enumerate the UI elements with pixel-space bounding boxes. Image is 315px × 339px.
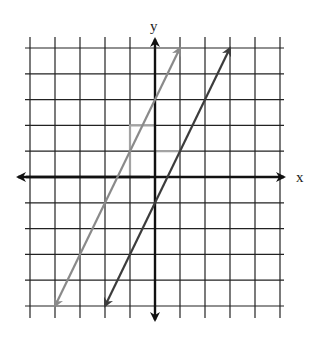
- line-a: [55, 177, 118, 306]
- axes: [18, 39, 284, 320]
- line-a: [118, 48, 181, 177]
- line-b: [168, 48, 231, 177]
- coordinate-plane: x y: [0, 0, 315, 339]
- y-axis-label: y: [150, 18, 158, 34]
- line-b: [105, 177, 168, 306]
- x-axis-label: x: [296, 169, 304, 185]
